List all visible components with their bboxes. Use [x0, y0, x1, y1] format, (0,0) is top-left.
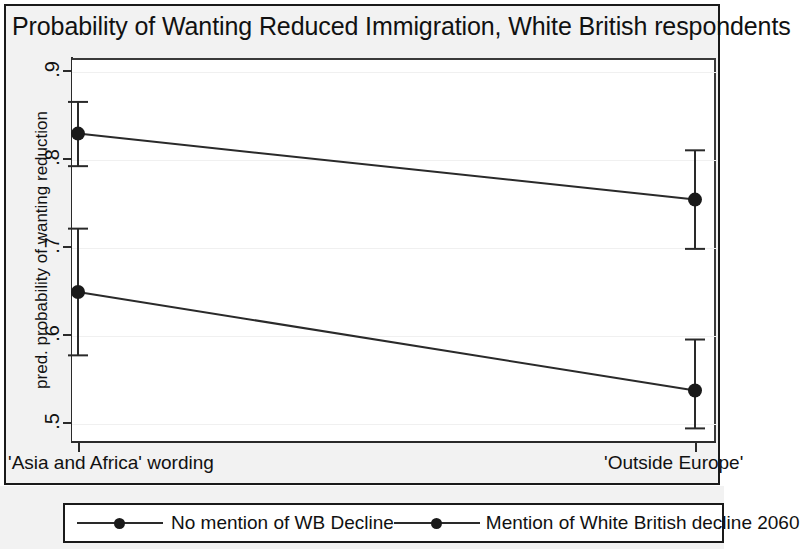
legend-entry-1[interactable]: Mention of White British decline 2060 [394, 512, 800, 534]
data-point-0-0 [71, 127, 85, 141]
y-tick-mark-2 [63, 246, 72, 248]
x-tick-mark-1 [695, 443, 697, 452]
legend-label-1: Mention of White British decline 2060 [486, 512, 800, 534]
data-series-layer [72, 60, 716, 443]
y-tick-mark-1 [63, 158, 72, 160]
y-tick-label-3: .6 [41, 314, 64, 354]
data-point-0-1 [688, 193, 702, 207]
legend-row: No mention of WB Decline Mention of Whit… [65, 505, 800, 541]
y-tick-label-4: .5 [41, 402, 64, 442]
chart-title: Probability of Wanting Reduced Immigrati… [12, 9, 718, 43]
y-tick-mark-4 [63, 422, 72, 424]
legend-entry-0[interactable]: No mention of WB Decline [77, 512, 394, 534]
legend-label-0: No mention of WB Decline [171, 512, 394, 534]
legend: No mention of WB Decline Mention of Whit… [63, 503, 724, 543]
x-tick-label-1: 'Outside Europe' [604, 452, 743, 474]
legend-marker-icon-1 [394, 516, 480, 530]
data-point-1-0 [71, 285, 85, 299]
x-tick-mark-0 [78, 443, 80, 452]
legend-marker-icon-0 [77, 516, 163, 530]
series-line-0 [78, 134, 695, 200]
x-tick-label-0: 'Asia and Africa' wording [8, 452, 214, 474]
y-tick-label-2: .7 [41, 226, 64, 266]
y-tick-label-0: .9 [41, 50, 64, 90]
y-tick-mark-0 [63, 70, 72, 72]
data-point-1-1 [688, 384, 702, 398]
series-line-1 [78, 292, 695, 391]
y-tick-mark-3 [63, 334, 72, 336]
y-tick-label-1: .8 [41, 138, 64, 178]
plot-area [72, 58, 716, 441]
